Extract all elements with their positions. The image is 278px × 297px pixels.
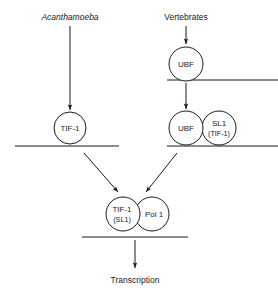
node-label-ubf-top: UBF bbox=[178, 60, 194, 69]
label-transcription: Transcription bbox=[111, 275, 160, 285]
pathway-diagram-canvas: UBF TIF-1 SL1 (TIF-1) UBF Pol 1 TIF-1 (S… bbox=[0, 0, 278, 297]
node-label-tif1-sl1-secondary: (SL1) bbox=[113, 215, 131, 224]
pathway-diagram: UBF TIF-1 SL1 (TIF-1) UBF Pol 1 TIF-1 (S… bbox=[0, 0, 278, 297]
node-sl1-tif1: SL1 (TIF-1) bbox=[202, 111, 236, 145]
node-tif1-sl1: TIF-1 (SL1) bbox=[106, 197, 140, 231]
node-tif1-acanthamoeba: TIF-1 bbox=[54, 112, 86, 144]
node-label-tif1-acanthamoeba: TIF-1 bbox=[60, 124, 80, 133]
node-ubf-bottom: UBF bbox=[169, 111, 203, 145]
node-label-pol1: Pol 1 bbox=[145, 210, 164, 219]
arrow-vertebrates-to-complex bbox=[146, 153, 177, 192]
heading-acanthamoeba: Acanthamoeba bbox=[40, 12, 98, 22]
heading-vertebrates: Vertebrates bbox=[164, 12, 207, 22]
node-label-ubf-bottom: UBF bbox=[178, 124, 194, 133]
node-ubf-top: UBF bbox=[169, 47, 203, 81]
node-label-sl1-tif1-primary: SL1 bbox=[212, 119, 227, 128]
node-label-tif1-sl1-primary: TIF-1 bbox=[112, 205, 132, 214]
arrow-acanthamoeba-to-complex bbox=[84, 153, 118, 192]
node-label-sl1-tif1-secondary: (TIF-1) bbox=[208, 129, 230, 138]
